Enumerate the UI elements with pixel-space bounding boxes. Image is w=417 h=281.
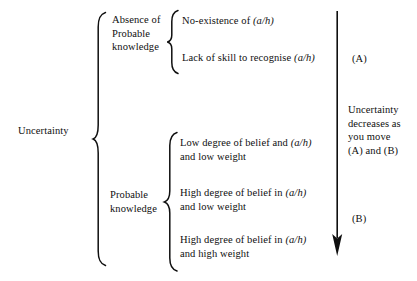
- leaf-low-belief-low-weight: Low degree of belief and (a/h) and low w…: [180, 136, 312, 163]
- leaf-text: High degree of belief in: [180, 187, 285, 198]
- leaf-lack-of-skill: Lack of skill to recognise (a/h): [182, 51, 315, 65]
- leaf-notation: (a/h): [285, 234, 306, 245]
- branch-label-line: Probable: [110, 189, 148, 200]
- marker-a-label: (A): [352, 52, 367, 66]
- brace-probable-branch: [163, 131, 179, 273]
- leaf-high-belief-high-weight: High degree of belief in (a/h) and high …: [180, 233, 306, 260]
- diagram-canvas: Uncertainty Absence of Probable knowledg…: [0, 0, 417, 281]
- leaf-text: No-existence of: [182, 15, 253, 26]
- annotation-line: (A) and (B): [348, 145, 398, 156]
- leaf-text-line2: and low weight: [180, 201, 246, 212]
- branch-label-line: knowledge: [110, 203, 157, 214]
- leaf-high-belief-low-weight: High degree of belief in (a/h) and low w…: [180, 186, 306, 213]
- root-node-label: Uncertainty: [18, 124, 69, 138]
- leaf-notation: (a/h): [294, 52, 315, 63]
- branch-label-probable-knowledge: Probable knowledge: [110, 188, 157, 215]
- annotation-line: decreases as: [348, 118, 401, 129]
- branch-label-absence-of-probable-knowledge: Absence of Probable knowledge: [112, 13, 161, 54]
- leaf-notation: (a/h): [285, 187, 306, 198]
- branch-label-line: Probable: [112, 28, 150, 39]
- leaf-text: Lack of skill to recognise: [182, 52, 294, 63]
- leaf-text: High degree of belief in: [180, 234, 285, 245]
- brace-absence-branch: [166, 9, 180, 75]
- leaf-text-line2: and high weight: [180, 248, 249, 259]
- annotation-note: Uncertainty decreases as you move (A) an…: [348, 103, 401, 157]
- leaf-text: Low degree of belief and: [180, 137, 291, 148]
- downward-arrow-icon: [330, 10, 346, 260]
- leaf-no-existence: No-existence of (a/h): [182, 14, 274, 28]
- annotation-line: you move: [348, 131, 391, 142]
- annotation-line: Uncertainty: [348, 104, 399, 115]
- leaf-notation: (a/h): [253, 15, 274, 26]
- brace-root: [92, 11, 108, 267]
- branch-label-line: Absence of: [112, 14, 161, 25]
- branch-label-line: knowledge: [112, 41, 159, 52]
- leaf-text-line2: and low weight: [180, 151, 246, 162]
- leaf-notation: (a/h): [291, 137, 312, 148]
- marker-b-label: (B): [352, 212, 366, 226]
